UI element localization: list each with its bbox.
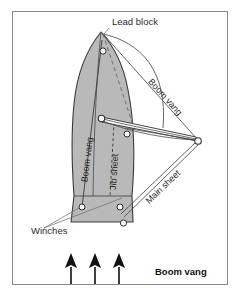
- fitting-circle-bow-block: [100, 48, 106, 54]
- figure-page: Lead block Boom vang Boom vang Jib sheet…: [0, 0, 241, 304]
- fitting-circle-starboard-winch: [117, 204, 123, 210]
- label-lead-block: Lead block: [112, 16, 158, 27]
- fitting-circle-boom-end-block: [195, 138, 202, 145]
- fitting-circle-mainsheet-traveller: [120, 220, 126, 226]
- label-winches: Winches: [31, 225, 68, 236]
- figure-caption: Boom vang: [155, 266, 207, 277]
- boom-vang-diagram: Lead block Boom vang Boom vang Jib sheet…: [0, 0, 241, 304]
- fitting-circle-mast-gooseneck: [98, 115, 104, 121]
- fitting-circle-vang-deck-block: [124, 131, 130, 137]
- fitting-circle-port-winch: [79, 204, 85, 210]
